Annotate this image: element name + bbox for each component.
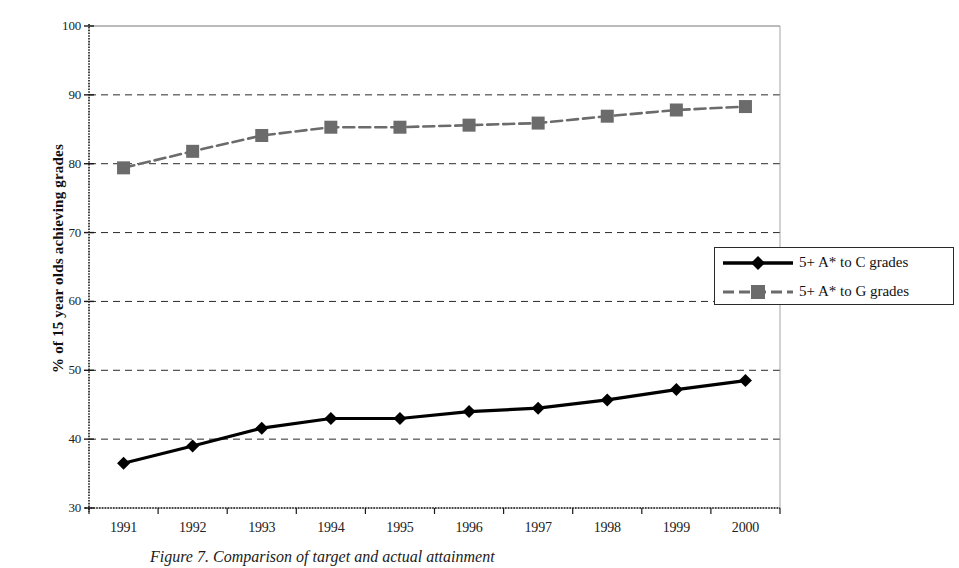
legend-label: 5+ A* to C grades [799,254,908,271]
data-point-marker[interactable] [393,412,406,425]
data-point-marker[interactable] [463,119,476,132]
data-point-marker[interactable] [739,374,752,387]
data-point-marker[interactable] [255,422,268,435]
y-tick-label: 40 [47,431,81,447]
y-tick-label: 90 [47,87,81,103]
y-tick-label: 30 [47,500,81,516]
legend-entry[interactable]: 5+ A* to C grades [715,248,953,277]
x-tick-label: 1994 [301,520,361,536]
y-tick-label: 60 [47,293,81,309]
y-tick-label: 50 [47,362,81,378]
x-tick-label: 1993 [232,520,292,536]
x-tick-label: 1998 [577,520,637,536]
data-point-marker[interactable] [601,110,614,123]
figure-caption: Figure 7. Comparison of target and actua… [150,548,850,566]
data-point-marker[interactable] [601,393,614,406]
data-point-marker[interactable] [393,121,406,134]
x-tick-label: 1995 [370,520,430,536]
data-point-marker[interactable] [532,117,545,130]
data-point-marker[interactable] [739,100,752,113]
data-point-marker[interactable] [255,129,268,142]
data-point-marker[interactable] [324,412,337,425]
data-point-marker[interactable] [324,121,337,134]
legend-label: 5+ A* to G grades [799,283,909,300]
data-point-marker[interactable] [670,383,683,396]
legend-swatch-diamond-icon [721,253,795,273]
data-point-marker[interactable] [117,161,130,174]
x-tick-label: 1991 [94,520,154,536]
x-tick-label: 1999 [646,520,706,536]
data-point-marker[interactable] [186,145,199,158]
chart-legend: 5+ A* to C grades5+ A* to G grades [714,247,954,305]
series-line-2 [124,107,746,168]
x-tick-label: 1996 [439,520,499,536]
data-point-marker[interactable] [463,405,476,418]
y-tick-label: 100 [47,18,81,34]
x-tick-label: 2000 [715,520,775,536]
legend-entry[interactable]: 5+ A* to G grades [715,277,953,306]
y-tick-label: 80 [47,156,81,172]
data-point-marker[interactable] [186,440,199,453]
data-point-marker[interactable] [117,457,130,470]
data-point-marker[interactable] [670,104,683,117]
data-point-marker[interactable] [532,402,545,415]
figure-container: % of 15 year olds achieving grades 30405… [0,0,959,568]
y-tick-label: 70 [47,225,81,241]
x-tick-label: 1992 [163,520,223,536]
legend-swatch-square-icon [721,282,795,302]
x-tick-label: 1997 [508,520,568,536]
series-line-1 [124,381,746,464]
